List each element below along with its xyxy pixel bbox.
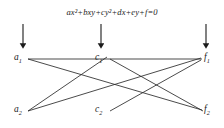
arrow-group [23,24,206,46]
node-f2-subscript: 2 [207,109,210,116]
node-c1-subscript: 1 [99,57,102,64]
node-a2-subscript: 2 [19,109,22,116]
node-f1-subscript: 1 [207,57,210,64]
node-label-c1: c1 [95,52,102,62]
figure-canvas: ax²+bxy+cy²+dx+ey+f=0 a1 a2 c1 c2 f1 f2 [0,0,224,128]
bipartite-crossing-diagram [0,0,224,128]
node-label-f2: f2 [204,104,210,114]
edge-c2-to-f1 [110,60,201,111]
node-label-a2: a2 [14,104,22,114]
edge-a2-to-f1 [28,58,201,111]
node-label-a1: a1 [14,52,22,62]
node-label-f1: f1 [204,52,210,62]
edge-a2-to-c1 [28,57,107,111]
node-c2-subscript: 2 [99,109,102,116]
node-a1-subscript: 1 [19,57,22,64]
node-label-c2: c2 [95,104,102,114]
edge-group [28,57,203,111]
